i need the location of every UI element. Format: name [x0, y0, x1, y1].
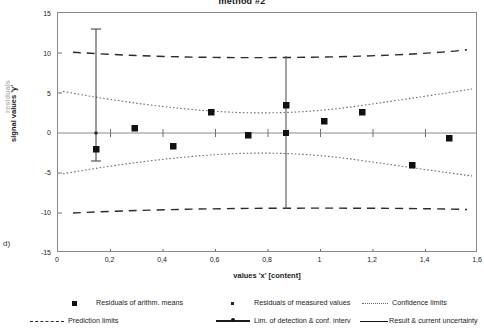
x-tick-label: 0: [55, 256, 59, 263]
square-marker-icon: [58, 298, 92, 308]
dot-marker-icon: [216, 298, 250, 308]
chart-legend: Residuals of arithm. means Residuals of …: [0, 292, 484, 332]
legend-label: Residuals of measured values: [254, 298, 350, 308]
legend-label: Result & current uncertainty: [389, 316, 478, 326]
legend-item-result-uncertainty[interactable]: Result & current uncertainty: [360, 316, 478, 326]
legend-item-prediction-limits[interactable]: Prediction limits: [30, 316, 118, 326]
dotted-line-icon: [362, 298, 388, 308]
solid-line-icon: [360, 316, 388, 326]
legend-label: Residuals of arithm. means: [96, 298, 183, 308]
x-tick-label: 0,2: [105, 256, 115, 263]
chart-root: method #2 15 10 5 0 -5 -10 -15 residuals…: [0, 0, 484, 332]
x-axis-tick-labels: 0 0,2 0,4 0,6 0,8 1 1,2 1,4 1,6: [0, 0, 484, 332]
x-tick-label: 0,6: [210, 256, 220, 263]
x-axis-title: values 'x' [content]: [57, 271, 477, 280]
x-tick-label: 1: [318, 256, 322, 263]
legend-label: Lim. of detection & conf. interv: [254, 316, 351, 326]
legend-item-residuals-arithm-means[interactable]: Residuals of arithm. means: [58, 298, 183, 308]
x-tick-label: 1,6: [472, 256, 482, 263]
x-tick-label: 1,2: [367, 256, 377, 263]
errorbar-line-icon: [216, 316, 250, 326]
x-tick-label: 1,4: [420, 256, 430, 263]
legend-item-limit-of-detection[interactable]: Lim. of detection & conf. interv: [216, 316, 351, 326]
x-tick-label: 0,4: [157, 256, 167, 263]
legend-item-residuals-measured-values[interactable]: Residuals of measured values: [216, 298, 350, 308]
legend-label: Confidence limits: [392, 298, 447, 308]
dashed-line-icon: [30, 316, 64, 326]
legend-label: Prediction limits: [68, 316, 118, 326]
legend-item-confidence-limits[interactable]: Confidence limits: [362, 298, 447, 308]
x-tick-label: 0,8: [262, 256, 272, 263]
